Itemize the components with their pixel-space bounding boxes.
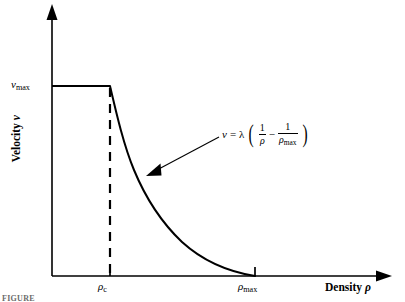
y-axis-label-text: Velocity: [10, 123, 22, 162]
y-axis-label: Velocity v: [11, 94, 23, 184]
y-axis-label-symbol: v: [10, 115, 22, 120]
annotation-arrow-icon: [146, 137, 219, 176]
xtick-rhoc-subscript: c: [103, 285, 107, 294]
equation-lhs: v: [222, 128, 227, 140]
equation-annotation: v = λ ( 1 ρ − 1 ρmax ): [222, 122, 309, 146]
y-axis-arrow-icon: [47, 4, 58, 20]
figure-caption: FIGURE: [2, 294, 35, 302]
x-axis-arrow-icon: [376, 271, 392, 282]
y-axis: [47, 4, 58, 276]
equation-frac2-numerator: 1: [284, 122, 291, 133]
xtick-label-rho-c: ρc: [98, 281, 107, 294]
velocity-density-figure: Velocity v vmax ρc ρmax Density ρ v = λ …: [0, 0, 405, 302]
ytick-label-vmax: vmax: [11, 79, 30, 92]
equation-frac2-den-subscript: max: [284, 138, 297, 147]
equation-frac2-denominator: ρmax: [278, 133, 298, 146]
equation-fraction-two: 1 ρmax: [278, 122, 298, 146]
equation-minus: −: [269, 128, 275, 140]
plot-canvas: [0, 0, 405, 302]
xtick-rhomax-subscript: max: [243, 285, 257, 294]
x-axis-label-text: Density: [325, 281, 362, 293]
ytick-vmax-subscript: max: [16, 83, 30, 92]
congested-curve: [110, 86, 255, 276]
equation-frac1-numerator: 1: [259, 123, 266, 134]
equation-frac1-denominator: ρ: [259, 134, 266, 146]
x-axis-label-symbol: ρ: [365, 281, 371, 293]
equation-equals: =: [230, 128, 236, 140]
equation-fraction-one: 1 ρ: [259, 123, 266, 146]
xtick-label-rho-max: ρmax: [238, 281, 257, 294]
equation-lambda: λ: [239, 128, 244, 140]
x-axis-label: Density ρ: [325, 282, 371, 294]
